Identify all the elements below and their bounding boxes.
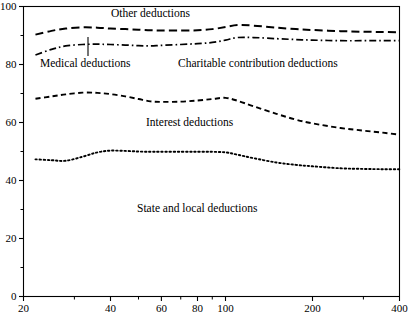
x-axis-label-100: 100 <box>211 303 241 314</box>
chart-series-group <box>35 25 399 169</box>
x-axis-label-400: 400 <box>385 303 415 314</box>
chart-container: 020406080100 20406080100200400 Other ded… <box>0 0 417 320</box>
interest-deductions-label: Interest deductions <box>146 117 233 129</box>
state-and-local-deductions-label: State and local deductions <box>137 203 257 215</box>
y-axis-label-100: 100 <box>0 1 17 12</box>
chart-plot-area <box>0 0 417 320</box>
x-axis-label-40: 40 <box>95 303 125 314</box>
series-line-charitable-contribution-deductions <box>35 37 399 55</box>
chart-axes <box>19 7 400 302</box>
x-axis-label-80: 80 <box>182 303 212 314</box>
medical-deductions-label: Medical deductions <box>40 58 130 70</box>
x-axis-label-60: 60 <box>146 303 176 314</box>
series-line-other-deductions <box>35 25 399 35</box>
x-axis-label-200: 200 <box>298 303 328 314</box>
charitable-contribution-deductions-label: Charitable contribution deductions <box>178 58 338 70</box>
y-axis-label-80: 80 <box>0 59 17 70</box>
y-axis-label-40: 40 <box>0 175 17 186</box>
y-axis-label-60: 60 <box>0 117 17 128</box>
y-axis-label-0: 0 <box>0 291 17 302</box>
series-line-state-and-local-deductions <box>35 151 399 170</box>
other-deductions-label: Other deductions <box>111 8 190 20</box>
x-axis-label-20: 20 <box>9 303 39 314</box>
y-axis-label-20: 20 <box>0 233 17 244</box>
